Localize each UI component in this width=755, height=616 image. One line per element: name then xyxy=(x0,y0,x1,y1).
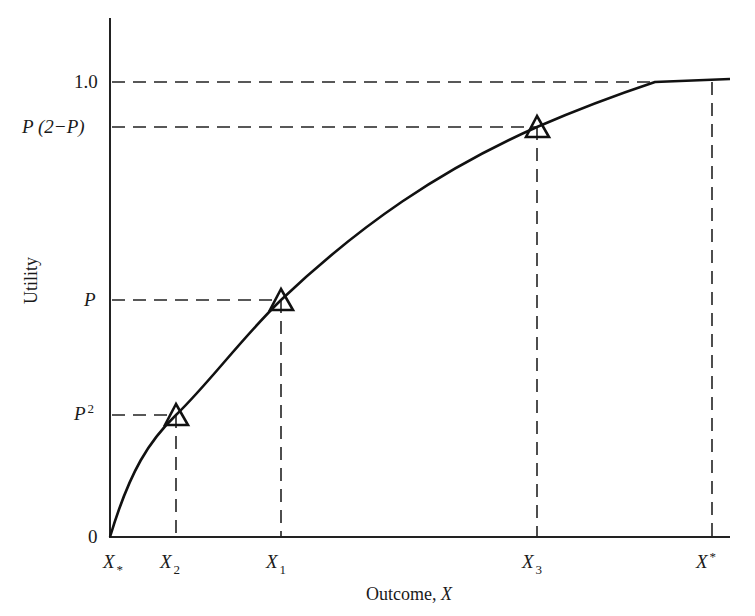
y-tick-p-squared: P2 xyxy=(74,404,94,423)
triangle-markers xyxy=(165,116,549,425)
y-tick-one: 1.0 xyxy=(74,72,98,91)
y-tick-p: P xyxy=(84,290,96,309)
x-axis-label: Outcome, X xyxy=(366,584,452,605)
guide-lines xyxy=(112,82,712,536)
x-tick-x2: X2 xyxy=(160,552,180,571)
x-tick-x-lower: X* xyxy=(103,552,123,571)
x-tick-x1: X1 xyxy=(266,552,286,571)
y-tick-p-2-minus-p: P (2−P) xyxy=(22,117,85,136)
y-tick-zero: 0 xyxy=(88,527,98,546)
y-axis-label: Utility xyxy=(21,257,42,304)
x-tick-x3: X3 xyxy=(522,552,542,571)
utility-curve xyxy=(110,79,730,537)
utility-curve-plot xyxy=(0,0,755,616)
x-tick-x-upper: X* xyxy=(696,552,716,571)
